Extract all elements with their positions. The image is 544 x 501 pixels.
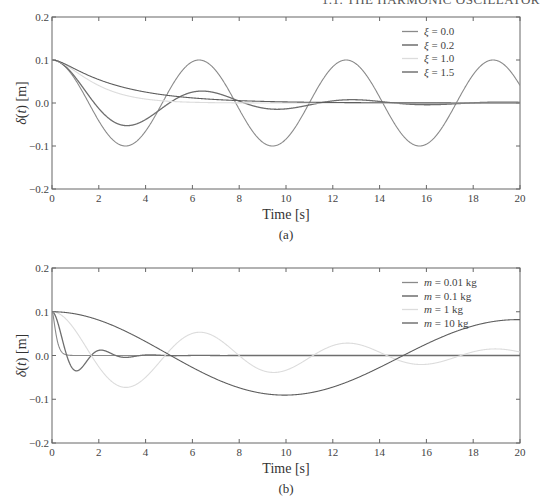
figure-caption: (a) [279, 227, 293, 242]
legend: ξ = 0.0ξ = 0.2ξ = 1.0ξ = 1.5 [402, 25, 455, 79]
legend-label: m = 0.1 kg [424, 290, 472, 302]
x-tick-label: 16 [421, 446, 433, 458]
x-tick-label: 14 [374, 192, 386, 204]
y-tick-label: 0.1 [35, 306, 49, 318]
x-tick-label: 0 [49, 446, 55, 458]
y-tick-label: 0.2 [35, 262, 49, 274]
x-tick-label: 18 [468, 192, 480, 204]
x-tick-label: 12 [327, 446, 338, 458]
x-tick-label: 18 [468, 446, 480, 458]
y-tick-label: 0.0 [35, 97, 49, 109]
x-tick-label: 2 [96, 192, 102, 204]
x-tick-label: 16 [421, 192, 433, 204]
legend-label: m = 0.01 kg [424, 276, 477, 288]
figure-caption: (b) [278, 481, 293, 496]
y-tick-label: 0.0 [35, 350, 49, 362]
legend-label: m = 10 kg [424, 317, 469, 329]
y-tick-label: −0.2 [29, 183, 49, 195]
legend-label: ξ = 1.0 [424, 52, 455, 65]
legend-label: ξ = 1.5 [424, 66, 455, 79]
x-axis-title: Time [s] [262, 207, 309, 222]
y-tick-label: −0.1 [29, 140, 49, 152]
x-tick-label: 12 [327, 192, 338, 204]
y-tick-label: 0.2 [35, 11, 49, 23]
x-tick-label: 8 [236, 446, 242, 458]
x-tick-label: 20 [515, 192, 527, 204]
x-tick-label: 4 [143, 192, 149, 204]
chart-mass: 024681012141618200.20.10.0−0.1−0.2Time [… [0, 250, 544, 501]
x-tick-label: 4 [143, 446, 149, 458]
x-tick-label: 8 [236, 192, 242, 204]
y-tick-label: −0.2 [29, 437, 49, 449]
legend-label: m = 1 kg [424, 303, 463, 315]
x-tick-label: 0 [49, 192, 55, 204]
x-axis-title: Time [s] [262, 461, 309, 476]
x-tick-label: 6 [190, 192, 196, 204]
x-tick-label: 10 [281, 446, 293, 458]
y-axis-title: δ(t) [m] [14, 81, 30, 124]
x-tick-label: 6 [190, 446, 196, 458]
legend-label: ξ = 0.2 [424, 39, 454, 52]
y-axis-title: δ(t) [m] [14, 334, 30, 377]
chart-damping-ratio: 024681012141618200.20.10.0−0.1−0.2Time [… [0, 0, 544, 250]
y-tick-label: 0.1 [35, 54, 49, 66]
x-tick-label: 20 [515, 446, 527, 458]
x-tick-label: 14 [374, 446, 386, 458]
legend-label: ξ = 0.0 [424, 25, 455, 38]
x-tick-label: 10 [281, 192, 293, 204]
y-tick-label: −0.1 [29, 393, 49, 405]
legend: m = 0.01 kgm = 0.1 kgm = 1 kgm = 10 kg [402, 276, 477, 329]
x-tick-label: 2 [96, 446, 102, 458]
